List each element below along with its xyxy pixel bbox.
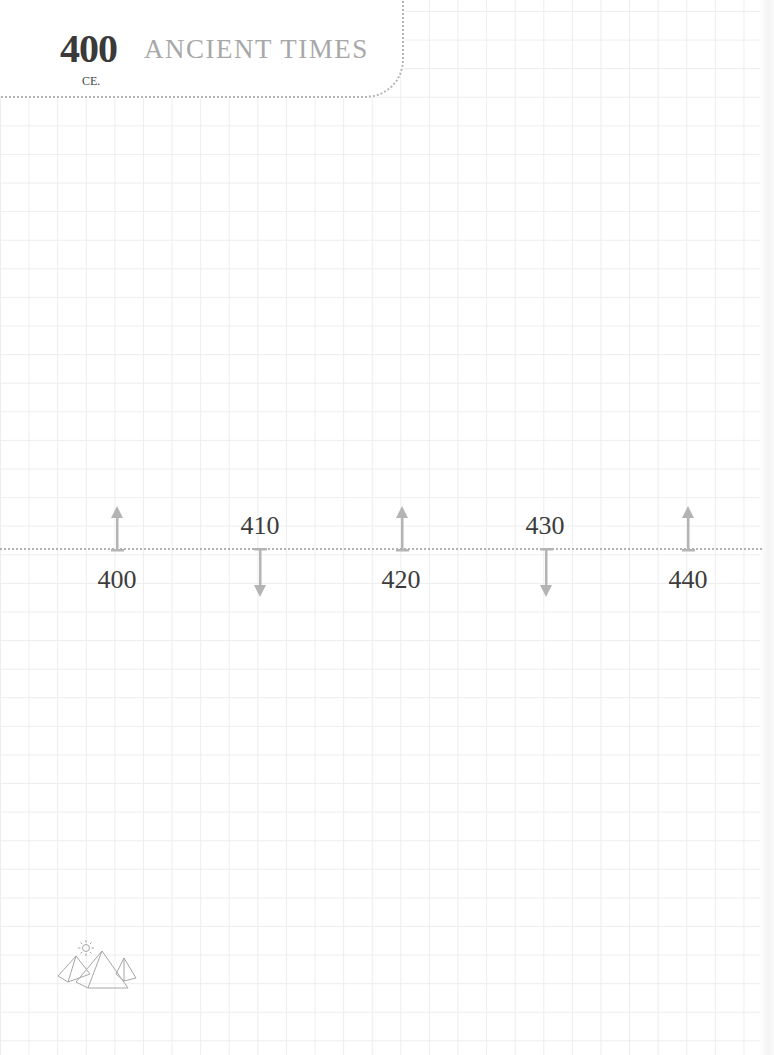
- header-year: 400: [60, 29, 117, 69]
- timeline-label-440: 440: [648, 567, 728, 593]
- page-edge-shadow: [760, 0, 774, 1055]
- arrow-up-icon: [105, 505, 129, 553]
- timeline-label-430: 430: [505, 513, 585, 539]
- page-title: ANCIENT TIMES: [144, 36, 369, 63]
- timeline-label-420: 420: [361, 567, 441, 593]
- arrow-up-icon: [676, 505, 700, 553]
- arrow-up-icon: [390, 505, 414, 553]
- header-era: CE.: [82, 74, 100, 89]
- timeline-label-410: 410: [220, 513, 300, 539]
- arrow-down-icon: [534, 547, 558, 599]
- arrow-down-icon: [248, 547, 272, 599]
- pyramids-with-sun-icon: [54, 938, 138, 994]
- timeline-label-400: 400: [77, 567, 157, 593]
- header-panel: 400 CE. ANCIENT TIMES: [0, 0, 404, 98]
